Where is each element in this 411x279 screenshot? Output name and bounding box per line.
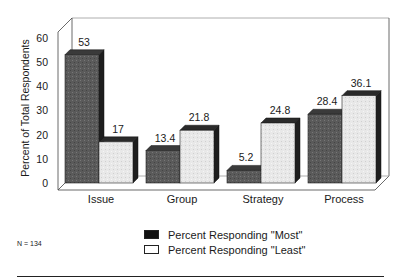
bar-issue-least <box>99 137 138 183</box>
bar-value-label: 28.4 <box>317 95 338 107</box>
category-label: Issue <box>88 193 114 205</box>
bar-group-least <box>180 125 219 183</box>
legend-swatch-light-icon <box>144 245 159 254</box>
legend-label-most: Percent Responding "Most" <box>168 229 302 241</box>
legend-item-most: Percent Responding "Most" <box>144 227 305 242</box>
legend-item-least: Percent Responding "Least" <box>144 242 305 257</box>
bar-value-label: 36.1 <box>351 77 372 89</box>
category-label: Process <box>324 193 364 205</box>
y-axis-label: Percent of Total Respondents <box>19 39 31 177</box>
bars: 531713.421.85.224.828.436.1 <box>65 36 381 183</box>
bar-issue-most <box>65 50 104 183</box>
y-tick-label: 20 <box>36 129 48 141</box>
legend-swatch-dark-icon <box>144 230 159 239</box>
bar-value-label: 17 <box>112 123 124 135</box>
y-tick-label: 60 <box>36 32 48 44</box>
bar-value-label: 5.2 <box>239 151 254 163</box>
legend-label-least: Percent Responding "Least" <box>168 244 305 256</box>
bar-group-most <box>146 146 185 183</box>
x-axis-categories: IssueGroupStrategyProcess <box>88 193 365 205</box>
bar-strategy-most <box>227 165 266 183</box>
y-tick-label: 10 <box>36 153 48 165</box>
bottom-rule <box>17 276 384 277</box>
bar-value-label: 53 <box>78 36 90 48</box>
y-tick-label: 30 <box>36 104 48 116</box>
y-tick-label: 0 <box>42 177 48 189</box>
y-axis-ticks: 0102030405060 <box>36 32 48 189</box>
bar-value-label: 24.8 <box>270 104 291 116</box>
bar-strategy-least <box>261 118 300 183</box>
bar-process-most <box>308 109 347 183</box>
legend: Percent Responding "Most" Percent Respon… <box>144 227 305 257</box>
sample-size-note: N = 134 <box>17 240 42 247</box>
category-label: Strategy <box>243 193 284 205</box>
bar-value-label: 21.8 <box>189 111 210 123</box>
category-label: Group <box>167 193 198 205</box>
y-tick-label: 50 <box>36 56 48 68</box>
y-tick-label: 40 <box>36 80 48 92</box>
bar-process-least <box>342 91 381 183</box>
bar-value-label: 13.4 <box>155 132 176 144</box>
